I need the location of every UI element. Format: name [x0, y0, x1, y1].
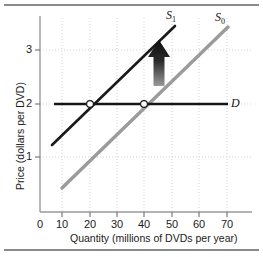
x-tick-label-50: 50	[162, 218, 182, 230]
x-tick-label-60: 60	[189, 218, 209, 230]
grid-lines	[40, 18, 252, 212]
x-tick-label-30: 30	[107, 218, 127, 230]
curve-label-d: D	[231, 96, 240, 111]
equilibrium-marker-original	[141, 101, 148, 108]
shift-arrow-icon	[148, 40, 170, 86]
curve-label-s1-sub: 1	[172, 15, 176, 24]
x-tick-label-0: 0	[30, 218, 50, 230]
x-tick-label-70: 70	[217, 218, 237, 230]
x-tick-label-20: 20	[80, 218, 100, 230]
curve-label-s1: S1	[166, 8, 176, 24]
curve-label-s0: S0	[215, 10, 225, 26]
x-tick-label-10: 10	[52, 218, 72, 230]
y-axis-title: Price (dollars per DVD)	[14, 82, 26, 190]
axis-lines	[40, 16, 252, 212]
equilibrium-marker-shifted	[87, 101, 94, 108]
curve-label-d-base: D	[231, 96, 240, 110]
x-tick-label-40: 40	[134, 218, 154, 230]
x-axis-title: Quantity (millions of DVDs per year)	[70, 232, 237, 244]
supply-demand-chart-figure: 0 10 20 30 40 50 60 70 1 2 3 Price (doll…	[0, 0, 263, 257]
y-tick-label-3: 3	[16, 43, 32, 55]
curve-label-s0-sub: 0	[221, 17, 225, 26]
